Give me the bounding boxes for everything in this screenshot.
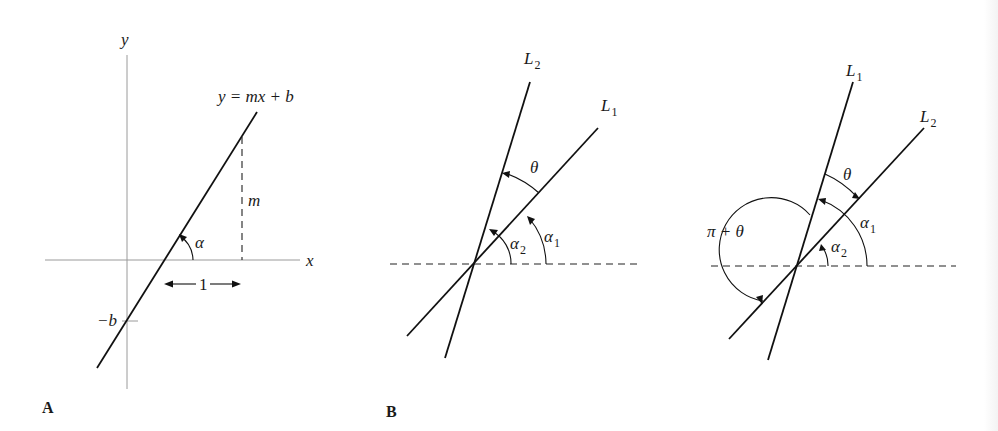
alpha2-arc: [492, 231, 511, 264]
x-axis-label: x: [305, 251, 314, 270]
arrowhead-left-icon: [164, 281, 173, 288]
y-axis-label: y: [119, 30, 129, 49]
figure-canvas: y x y = mx + b m 1 −b α A L2 L1 θ: [0, 0, 998, 431]
alpha1-label: α1: [544, 227, 560, 250]
panel-c: L1 L2 θ α1 α2 π + θ: [707, 61, 956, 360]
theta-label: θ: [843, 165, 851, 184]
line-l1: [407, 128, 598, 336]
scan-edge-shadow: [984, 0, 998, 431]
intercept-label: −b: [97, 311, 117, 330]
alpha1-label: α1: [860, 213, 876, 236]
alpha2-arrowhead-icon: [489, 229, 498, 236]
panel-b: L2 L1 θ α1 α2 B: [386, 49, 637, 420]
l1-label: L1: [845, 61, 862, 84]
alpha2-arc: [823, 248, 828, 266]
theta-arc: [825, 174, 857, 197]
rise-label-m: m: [248, 191, 260, 210]
arrowhead-right-icon: [232, 281, 241, 288]
l2-label: L2: [919, 107, 936, 130]
alpha2-label: α2: [510, 234, 526, 257]
alpha2-arrowhead-icon: [819, 244, 826, 251]
panel-a: y x y = mx + b m 1 −b α A: [42, 30, 314, 416]
figure: y x y = mx + b m 1 −b α A L2 L1 θ: [0, 0, 998, 431]
line-l1: [768, 82, 853, 360]
alpha2-label: α2: [831, 237, 847, 260]
pi-plus-theta-label: π + θ: [707, 222, 744, 241]
line-y-mx-b: [97, 112, 257, 368]
alpha1-arrowhead-icon: [818, 198, 826, 205]
line-l2: [445, 82, 530, 358]
l2-label: L2: [523, 49, 540, 72]
theta-label: θ: [530, 158, 538, 177]
line-equation-label: y = mx + b: [216, 87, 294, 106]
run-label-1: 1: [199, 275, 208, 294]
line-l2: [729, 128, 924, 339]
alpha-label: α: [195, 233, 205, 252]
panel-label-a: A: [42, 399, 54, 416]
pi-plus-theta-arc: [719, 198, 810, 301]
l1-label: L1: [600, 96, 617, 119]
panel-label-b: B: [386, 403, 397, 420]
